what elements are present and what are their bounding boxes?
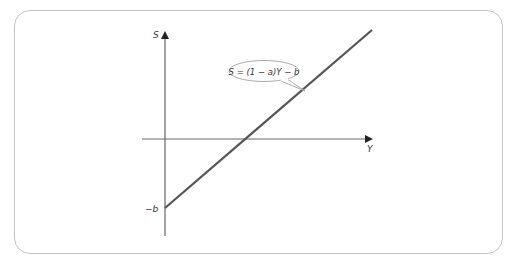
equation-label: S = (1 − a)Y − b bbox=[229, 67, 300, 77]
saving-line bbox=[165, 30, 372, 208]
x-axis-label: Y bbox=[367, 144, 374, 154]
y-axis-label: S bbox=[153, 30, 159, 40]
saving-function-diagram: S Y −b S = (1 − a)Y − b bbox=[0, 0, 515, 263]
equation-callout: S = (1 − a)Y − b bbox=[229, 61, 305, 92]
intercept-label: −b bbox=[145, 204, 159, 214]
